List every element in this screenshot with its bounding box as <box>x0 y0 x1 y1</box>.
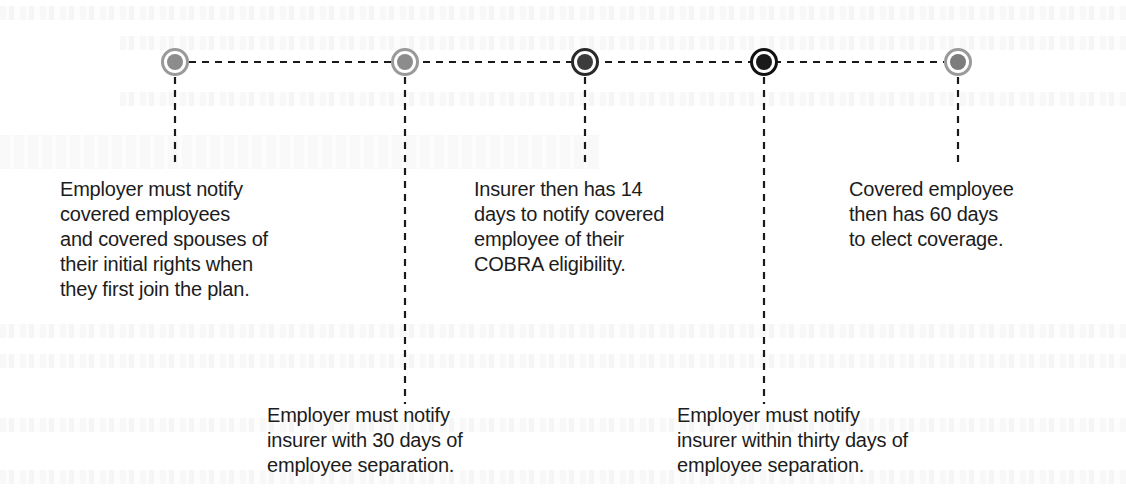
node-dot-icon <box>577 54 593 70</box>
step2-label: Employer must notify insurer with 30 day… <box>267 403 463 478</box>
timeline-node-2 <box>391 48 419 76</box>
timeline-node-3 <box>571 48 599 76</box>
timeline-node-4 <box>750 48 778 76</box>
node-dot-icon <box>167 54 183 70</box>
step5-label: Covered employee then has 60 days to ele… <box>849 177 1014 252</box>
step4-label: Employer must notify insurer within thir… <box>677 403 908 478</box>
node-dot-icon <box>397 54 413 70</box>
node-dot-icon <box>756 54 772 70</box>
node-dot-icon <box>950 54 966 70</box>
timeline-node-1 <box>161 48 189 76</box>
step1-label: Employer must notify covered employees a… <box>60 177 268 302</box>
timeline-node-5 <box>944 48 972 76</box>
step3-label: Insurer then has 14 days to notify cover… <box>474 177 664 277</box>
